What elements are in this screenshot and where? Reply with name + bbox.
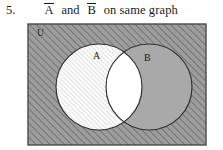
venn-diagram-page: 5. A and B on same graph [0,0,223,150]
venn-diagram [27,23,207,146]
connector-word: and [61,3,79,17]
question-header: 5. A and B on same graph [0,0,223,22]
universe-label: U [37,28,44,38]
a-complement-symbol: A [44,2,54,18]
set-label-b: B [144,52,151,63]
b-complement-symbol: B [87,2,96,18]
question-suffix: on same graph [104,3,178,17]
question-title: A and B on same graph [44,2,178,18]
venn-diagram-svg [27,23,207,146]
question-number: 5. [6,3,15,17]
set-label-a: A [93,50,100,61]
